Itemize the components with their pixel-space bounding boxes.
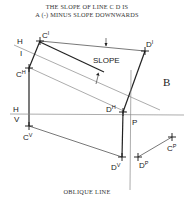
projector-c-prime-ch [29, 41, 40, 68]
point-cp-marker [168, 133, 176, 141]
fold-label-h-top: H [17, 37, 23, 46]
point-ch-marker [25, 64, 33, 72]
title-line-2: A (-) MINUS SLOPE DOWNWARDS [35, 11, 139, 19]
slope-arrow-top-head [105, 43, 108, 47]
fold-label-h-bottom: H [13, 105, 19, 114]
line-cv-dv [29, 126, 122, 157]
aux-view-label-b: B [163, 76, 170, 88]
label-dh: DH [106, 104, 116, 114]
label-cv: CV [23, 132, 33, 142]
fold-line-v-p [130, 70, 131, 190]
slope-arrow-bottom [96, 76, 98, 84]
slope-arrow-bottom-head [96, 73, 100, 77]
label-dv: DV [111, 162, 121, 172]
label-c-prime: CI [42, 30, 50, 40]
label-d-prime: DI [146, 39, 154, 49]
oblique-line-diagram: THE SLOPE OF LINE C D IS A (-) MINUS SLO… [0, 0, 194, 203]
label-ch: CH [16, 69, 26, 79]
slope-label: SLOPE [93, 56, 120, 65]
label-dp: DP [139, 160, 149, 170]
projector-d-prime-dh [123, 51, 145, 112]
point-dp-marker [134, 153, 142, 161]
fold-line-h-v [10, 114, 184, 115]
point-cv-marker [25, 122, 33, 130]
title-line-1: THE SLOPE OF LINE C D IS [46, 3, 129, 10]
point-dv-marker [118, 153, 126, 161]
fold-label-p: P [132, 118, 137, 127]
fold-line-h-i [14, 45, 160, 110]
fold-label-i: I [20, 49, 22, 58]
caption: OBLIQUE LINE [63, 188, 110, 195]
fold-label-v: V [14, 115, 20, 124]
label-cp: CP [167, 143, 177, 153]
projector-dh-dv [122, 112, 123, 157]
